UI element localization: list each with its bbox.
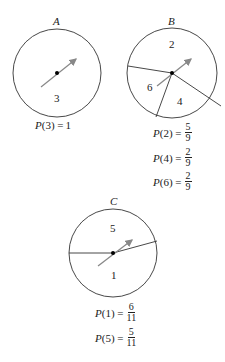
spinner-b-region-2: 2 bbox=[169, 39, 175, 50]
spinner-a-region-3: 3 bbox=[54, 93, 60, 104]
spinner-a-prob-3: P(3) = 1 bbox=[35, 119, 71, 131]
spinner-c-label: C bbox=[110, 196, 117, 207]
spinner-b-prob-4: P(4) = 29 bbox=[153, 147, 192, 168]
spinner-a-label: A bbox=[53, 16, 60, 27]
spinner-b-label: B bbox=[168, 16, 175, 27]
spinner-c-prob-1: P(1) = 611 bbox=[95, 302, 136, 323]
spinner-b-prob-6: P(6) = 29 bbox=[153, 171, 192, 192]
spinner-c-prob-5: P(5) = 511 bbox=[95, 327, 136, 348]
spinner-c-region-1: 1 bbox=[111, 270, 117, 281]
spinner-b-region-4: 4 bbox=[177, 96, 183, 107]
spinner-b-region-6: 6 bbox=[147, 82, 153, 93]
spinner-b-prob-2: P(2) = 59 bbox=[153, 122, 192, 143]
spinner-c-region-5: 5 bbox=[110, 223, 116, 234]
